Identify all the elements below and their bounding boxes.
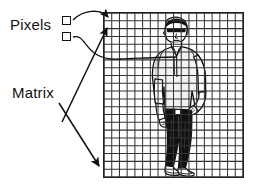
- diagram-canvas: Pixels Matrix: [0, 0, 253, 184]
- arrow-overlay: [0, 0, 253, 184]
- pixels-to-grid-corner-arrow: [73, 11, 108, 20]
- matrix-to-grid-bottom-arrow: [59, 103, 99, 166]
- pixels-to-grid-interior-arrow: [73, 37, 176, 59]
